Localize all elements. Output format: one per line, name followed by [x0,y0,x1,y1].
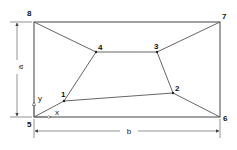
mesh-diagram: a b y x 1 2 3 4 5 6 7 8 [0,0,237,150]
node-label-1: 1 [61,90,66,99]
node-label-2: 2 [175,84,180,93]
node-label-5: 5 [27,120,32,129]
node-label-7: 7 [222,12,227,21]
node-label-8: 8 [27,9,32,18]
node-label-6: 6 [223,114,228,123]
inner-quadrilateral [64,52,173,101]
dim-b-label: b [127,127,132,136]
edge-8-4 [34,22,96,52]
x-axis-label: x [55,108,59,117]
edge-5-1 [34,101,64,117]
node-label-4: 4 [98,43,103,52]
edge-6-2 [173,93,220,117]
dim-a-label: a [16,64,25,69]
node-label-3: 3 [154,42,159,51]
edge-7-3 [157,22,220,52]
y-axis-label: y [38,94,42,103]
